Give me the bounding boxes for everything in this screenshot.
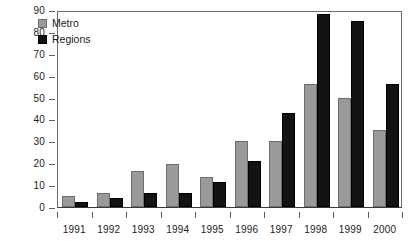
bar-metro-2000: [373, 130, 386, 207]
x-tick-mark: [368, 212, 369, 218]
bar-regions-1993: [144, 193, 157, 207]
bar-metro-1991: [62, 196, 75, 207]
y-tick-label: 10: [33, 181, 45, 191]
legend-item-metro: Metro: [38, 16, 91, 30]
x-tick-mark: [92, 212, 93, 218]
y-tick-label: 50: [33, 94, 45, 104]
bar-metro-1999: [338, 98, 351, 207]
legend-swatch-regions-icon: [38, 35, 47, 44]
y-tick-label: 0: [39, 203, 45, 213]
legend-item-regions: Regions: [38, 32, 91, 46]
legend-label-metro: Metro: [52, 18, 79, 29]
x-tick-mark: [57, 212, 58, 218]
bar-regions-1999: [351, 21, 364, 207]
x-tick-mark: [299, 212, 300, 218]
y-tick-mark: [49, 120, 55, 121]
bar-metro-1997: [269, 141, 282, 207]
y-tick-mark: [49, 142, 55, 143]
y-tick-mark: [49, 164, 55, 165]
bar-metro-1998: [304, 84, 317, 207]
x-tick-mark: [402, 212, 403, 218]
y-tick-label: 70: [33, 50, 45, 60]
y-tick-mark: [49, 11, 55, 12]
x-tick-mark: [333, 212, 334, 218]
bar-regions-1992: [110, 198, 123, 207]
chart-legend: Metro Regions: [38, 16, 91, 48]
y-tick-mark: [49, 186, 55, 187]
y-tick-label: 40: [33, 115, 45, 125]
bar-regions-1991: [75, 202, 88, 207]
y-tick-mark: [49, 208, 55, 209]
x-tick-mark: [230, 212, 231, 218]
x-tick-mark: [161, 212, 162, 218]
y-tick-label: 60: [33, 72, 45, 82]
x-tick-mark: [126, 212, 127, 218]
y-tick-mark: [49, 77, 55, 78]
bar-regions-2000: [386, 84, 399, 207]
y-tick-mark: [49, 99, 55, 100]
bar-chart: 0102030405060708090 19911992199319941995…: [0, 0, 409, 241]
bar-regions-1995: [213, 182, 226, 207]
bar-regions-1998: [317, 14, 330, 207]
x-tick-mark: [264, 212, 265, 218]
x-tick-label: 2000: [365, 224, 405, 235]
bar-metro-1994: [166, 164, 179, 207]
legend-label-regions: Regions: [52, 34, 91, 45]
bar-metro-1992: [97, 193, 110, 207]
legend-swatch-metro-icon: [38, 19, 47, 28]
bar-regions-1996: [248, 161, 261, 207]
plot-area: [57, 11, 402, 208]
x-axis: 1991199219931994199519961997199819992000: [57, 212, 402, 241]
y-tick-mark: [49, 55, 55, 56]
bar-metro-1995: [200, 177, 213, 207]
bar-regions-1997: [282, 113, 295, 207]
bar-metro-1996: [235, 141, 248, 207]
y-tick-label: 90: [33, 6, 45, 16]
x-tick-mark: [195, 212, 196, 218]
bar-metro-1993: [131, 171, 144, 207]
y-tick-label: 20: [33, 159, 45, 169]
y-tick-label: 30: [33, 137, 45, 147]
bar-regions-1994: [179, 193, 192, 207]
